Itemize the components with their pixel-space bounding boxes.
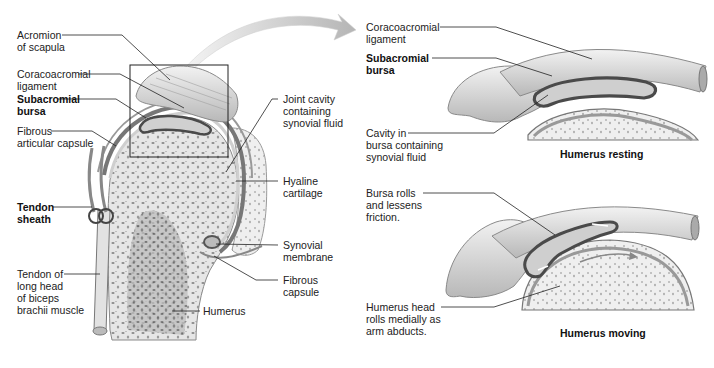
caption-humerus-moving: Humerus moving	[560, 327, 646, 339]
illustration	[0, 0, 714, 368]
label-bursa-rolls: Bursa rolls and lessens friction.	[366, 187, 422, 223]
label-acromion: Acromion of scapula	[17, 29, 65, 53]
label-fibrous-capsule: Fibrous capsule	[283, 274, 319, 298]
moving-illustration	[446, 207, 699, 310]
label-joint-cavity: Joint cavity containing synovial fluid	[283, 93, 343, 129]
label-hyaline-cartilage: Hyaline cartilage	[283, 175, 323, 199]
label-synovial-membrane: Synovial membrane	[283, 239, 333, 263]
transition-arrow	[185, 14, 356, 72]
resting-illustration	[448, 49, 707, 140]
label-subacromial-bursa: Subacromial bursa	[17, 93, 80, 117]
biceps-tendon	[94, 210, 110, 332]
label-coracoacromial-ligament: Coracoacromial ligament	[17, 68, 91, 92]
shoulder-bursa-diagram: Acromion of scapula Coracoacromial ligam…	[0, 0, 714, 368]
label-coracoacromial-ligament-resting: Coracoacromial ligament	[366, 21, 440, 45]
label-fibrous-articular-capsule: Fibrous articular capsule	[17, 125, 93, 149]
label-subacromial-bursa-resting: Subacromial bursa	[366, 52, 429, 76]
label-humerus-head-rolls: Humerus head rolls medially as arm abduc…	[366, 301, 441, 337]
label-bursa-cavity: Cavity in bursa containing synovial flui…	[366, 127, 443, 163]
label-biceps-tendon: Tendon of long head of biceps brachii mu…	[17, 268, 84, 316]
caption-humerus-resting: Humerus resting	[560, 148, 643, 160]
label-humerus: Humerus	[203, 305, 246, 317]
label-tendon-sheath: Tendon sheath	[17, 201, 54, 225]
